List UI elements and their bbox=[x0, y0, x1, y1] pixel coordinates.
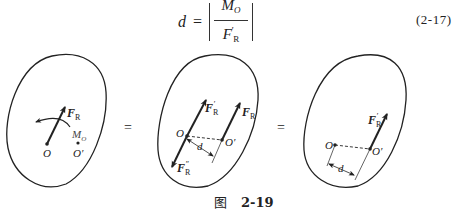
equation-lhs: d bbox=[178, 13, 186, 31]
point-o-prime bbox=[220, 138, 224, 142]
force-arrow-fr-prime bbox=[187, 100, 206, 136]
force-arrow-fr bbox=[47, 107, 65, 144]
point-o-prime bbox=[76, 141, 79, 144]
figure-2-19: FR MO O O′ = FR′ FR FR″ O O′ d = FR′ O O… bbox=[0, 44, 474, 192]
figure-caption: 图2-19 bbox=[214, 192, 274, 211]
rigid-body-outline bbox=[304, 55, 406, 187]
label-fr: FR bbox=[66, 106, 81, 122]
panel-2: FR′ FR FR″ O O′ d bbox=[158, 55, 258, 187]
absolute-value: MO F′R bbox=[209, 3, 253, 41]
caption-prefix: 图 bbox=[214, 195, 227, 210]
label-o: O bbox=[325, 139, 333, 151]
fraction-numerator: MO bbox=[222, 0, 241, 18]
fraction-line bbox=[214, 20, 248, 21]
rigid-body-outline bbox=[7, 55, 106, 187]
panel-3: FR′ O O′ d bbox=[304, 55, 406, 187]
denominator-subscript: R bbox=[233, 34, 239, 44]
label-o-prime: O′ bbox=[73, 147, 84, 159]
label-fr-prime: FR′ bbox=[204, 100, 219, 117]
numerator-symbol: M bbox=[222, 0, 235, 13]
extension-line-oprime bbox=[355, 149, 370, 180]
panel-1: FR MO O O′ bbox=[7, 55, 106, 187]
equals-sign-2: = bbox=[277, 120, 285, 135]
label-o: O bbox=[176, 127, 184, 139]
force-arrow-fr bbox=[222, 103, 240, 140]
numerator-subscript: O bbox=[234, 5, 241, 15]
label-fr: FR bbox=[241, 105, 256, 121]
equals-sign-1: = bbox=[124, 120, 132, 135]
label-o-prime: O′ bbox=[225, 136, 236, 148]
equation-body: d = MO F′R bbox=[178, 2, 253, 42]
label-o: O bbox=[43, 147, 51, 159]
extension-line bbox=[212, 140, 222, 163]
label-fr-double-prime: FR″ bbox=[176, 160, 191, 177]
dashed-line-o-oprime bbox=[187, 136, 222, 140]
caption-number: 2-19 bbox=[241, 195, 274, 210]
label-d: d bbox=[338, 162, 344, 174]
moment-arrow-mo bbox=[36, 119, 70, 127]
label-d: d bbox=[197, 140, 203, 152]
point-o bbox=[333, 143, 337, 147]
equation-number: (2-17) bbox=[416, 12, 452, 28]
label-mo: MO bbox=[71, 128, 86, 143]
label-o-prime: O′ bbox=[372, 145, 383, 157]
dashed-line-o-oprime bbox=[335, 145, 370, 149]
label-fr-prime: FR′ bbox=[367, 112, 382, 129]
equation-equals: = bbox=[193, 13, 202, 31]
point-o bbox=[45, 142, 49, 146]
equation-2-17: d = MO F′R (2-17) bbox=[0, 0, 474, 44]
point-o bbox=[185, 134, 189, 138]
